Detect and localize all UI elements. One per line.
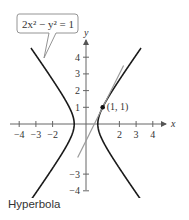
hyperbola-chart: x y −4−3−22344321−3−4 (1, 1) 2x² − y² = … [0, 0, 189, 198]
y-tick-label: 4 [75, 52, 80, 63]
x-tick-label: −4 [14, 129, 25, 140]
y-tick-label: 3 [75, 68, 80, 79]
chart-caption: Hyperbola [8, 198, 60, 210]
equation-callout: 2x² − y² = 1 [17, 14, 78, 58]
x-tick-label: 2 [117, 129, 122, 140]
x-tick-label: 4 [150, 129, 155, 140]
x-tick-label: −3 [31, 129, 42, 140]
x-tick-label: −2 [47, 129, 58, 140]
y-tick-label: −3 [69, 169, 80, 180]
y-tick-label: 2 [75, 85, 80, 96]
y-tick-label: 1 [75, 102, 80, 113]
point-label: (1, 1) [107, 101, 129, 113]
point-marker [100, 105, 105, 110]
x-tick-label: 3 [134, 129, 139, 140]
y-tick-label: −4 [69, 185, 80, 196]
y-axis-label: y [83, 27, 89, 38]
x-axis-label: x [170, 118, 176, 129]
equation-label: 2x² − y² = 1 [22, 18, 74, 30]
